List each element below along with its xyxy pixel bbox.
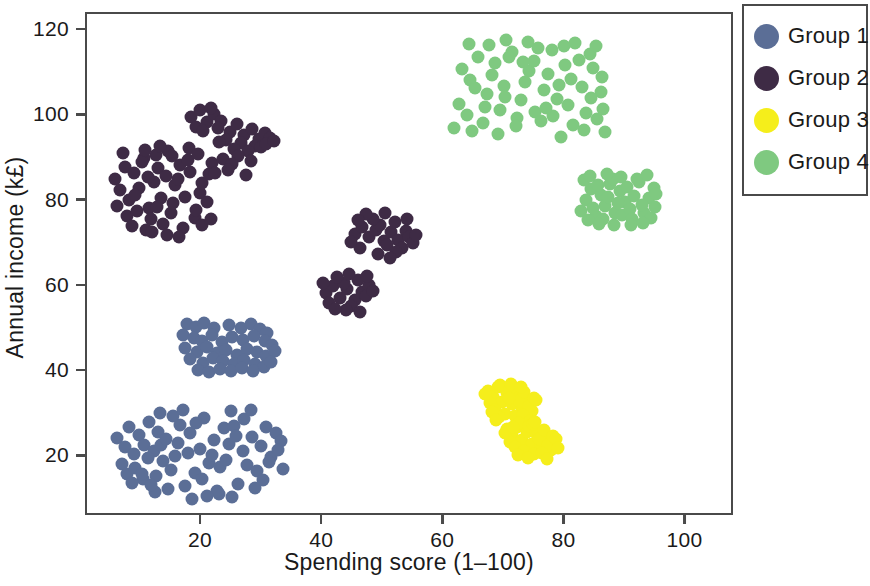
data-point — [345, 235, 358, 248]
data-point — [237, 445, 250, 458]
x-axis-tick-mark — [199, 515, 202, 524]
legend-item-label: Group 2 — [788, 65, 869, 91]
legend-item-4[interactable]: Group 4 — [744, 141, 866, 183]
data-point — [569, 36, 582, 49]
y-axis-tick: 20 — [45, 443, 85, 467]
legend-item-label: Group 4 — [788, 149, 869, 175]
data-point — [153, 140, 166, 153]
data-point — [491, 128, 504, 141]
data-point — [383, 251, 396, 264]
data-point — [196, 472, 209, 485]
data-point — [494, 104, 507, 117]
data-point — [232, 477, 245, 490]
x-axis-tick: 80 — [551, 515, 575, 552]
data-point — [595, 71, 608, 84]
data-point — [209, 166, 222, 179]
data-point — [360, 269, 373, 282]
data-point — [181, 447, 194, 460]
scatter-plot-figure: Annual income (k£) 20406080100120 204060… — [0, 0, 870, 586]
data-point — [462, 37, 475, 50]
data-point — [466, 124, 479, 137]
data-point — [192, 147, 205, 160]
legend-item-3[interactable]: Group 3 — [744, 99, 866, 141]
data-point — [225, 405, 238, 418]
data-point — [589, 39, 602, 52]
data-point — [205, 448, 218, 461]
data-point — [244, 155, 257, 168]
data-point — [159, 432, 172, 445]
data-point — [352, 214, 365, 227]
data-point — [135, 156, 148, 169]
data-point — [561, 99, 574, 112]
x-axis-tick-mark — [441, 515, 444, 524]
data-point — [145, 479, 158, 492]
x-axis-tick: 60 — [430, 515, 454, 552]
data-point — [599, 125, 612, 138]
data-point — [317, 277, 330, 290]
data-point — [530, 394, 543, 407]
x-axis-tick-mark — [683, 515, 686, 524]
data-point — [204, 101, 217, 114]
y-axis-tick: 120 — [33, 17, 85, 41]
data-point — [540, 101, 553, 114]
data-point — [529, 416, 542, 429]
data-point — [502, 392, 515, 405]
y-axis-tick-mark — [76, 284, 85, 287]
data-point — [600, 168, 613, 181]
data-point — [342, 268, 355, 281]
data-point — [139, 143, 152, 156]
legend-item-label: Group 3 — [788, 107, 869, 133]
legend-item-2[interactable]: Group 2 — [744, 57, 866, 99]
data-point — [229, 430, 242, 443]
x-axis-title: Spending score (1–100) — [85, 549, 733, 576]
data-point — [500, 33, 513, 46]
data-point — [208, 434, 221, 447]
data-point — [553, 78, 566, 91]
y-axis-tick-mark — [76, 369, 85, 372]
data-point — [221, 164, 234, 177]
data-point — [461, 109, 474, 122]
data-point — [514, 380, 527, 393]
data-point — [535, 115, 548, 128]
legend-swatch-icon — [754, 66, 779, 91]
data-point — [166, 197, 179, 210]
data-point — [193, 442, 206, 455]
data-point — [519, 76, 532, 89]
data-point — [502, 50, 515, 63]
data-point — [169, 450, 182, 463]
data-point — [371, 247, 384, 260]
data-point — [624, 218, 637, 231]
data-point — [117, 146, 130, 159]
data-point — [607, 219, 620, 232]
legend-item-label: Group 1 — [788, 23, 869, 49]
legend-item-1[interactable]: Group 1 — [744, 15, 866, 57]
data-point — [521, 36, 534, 49]
data-point — [176, 404, 189, 417]
y-axis-tick: 60 — [45, 273, 85, 297]
data-point — [635, 198, 648, 211]
data-point — [517, 55, 530, 68]
data-points-layer — [87, 14, 731, 513]
legend-swatch-icon — [754, 24, 779, 49]
data-point — [239, 169, 252, 182]
y-axis-tick-label: 40 — [45, 358, 76, 382]
data-point — [200, 195, 213, 208]
y-axis-tick-label: 120 — [33, 17, 76, 41]
data-point — [179, 191, 192, 204]
data-point — [541, 453, 554, 466]
data-point — [153, 406, 166, 419]
y-axis-tick-label: 100 — [33, 102, 76, 126]
data-point — [329, 302, 342, 315]
data-point — [226, 491, 239, 504]
y-axis-tick: 40 — [45, 358, 85, 382]
data-point — [125, 476, 138, 489]
data-point — [559, 59, 572, 72]
data-point — [452, 97, 465, 110]
legend-swatch-icon — [754, 150, 779, 175]
data-point — [649, 200, 662, 213]
y-axis-ticks: 20406080100120 — [0, 0, 85, 586]
data-point — [255, 440, 268, 453]
legend-swatch-icon — [754, 108, 779, 133]
data-point — [593, 217, 606, 230]
data-point — [480, 88, 493, 101]
